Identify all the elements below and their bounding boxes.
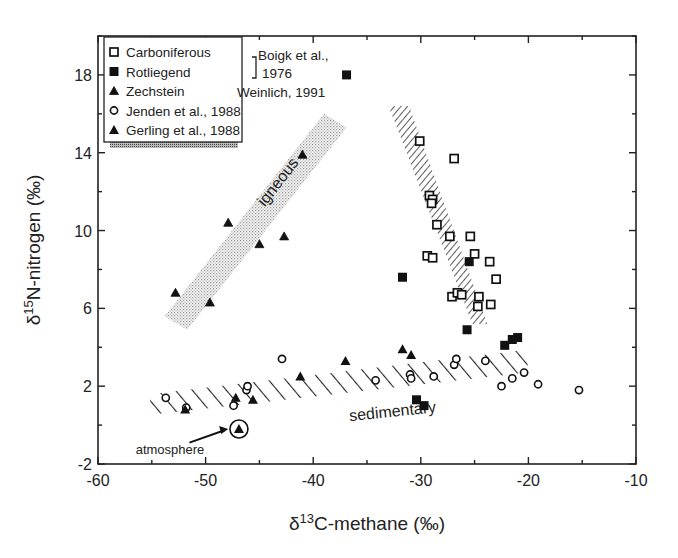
- legend-item: Carboniferous: [110, 45, 211, 60]
- marker-open-square: [471, 250, 479, 258]
- annotation-atmosphere: atmosphere: [136, 442, 205, 457]
- marker-open-circle: [575, 386, 582, 393]
- marker-open-circle: [430, 373, 437, 380]
- legend-citation-boigk-1: Boigk et al.,: [258, 48, 329, 63]
- marker-open-square: [450, 155, 458, 163]
- legend-label: Jenden et al., 1988: [126, 104, 241, 119]
- legend-label: Gerling et al., 1988: [126, 123, 240, 138]
- marker-filled-square: [110, 67, 119, 76]
- marker-open-circle: [278, 355, 285, 362]
- legend-label: Rotliegend: [126, 65, 191, 80]
- x-tick-label: -50: [194, 472, 217, 489]
- marker-open-square: [458, 291, 466, 299]
- marker-triangle: [171, 288, 180, 296]
- marker-open-circle: [534, 381, 541, 388]
- marker-open-square: [416, 137, 424, 145]
- marker-filled-square: [513, 333, 522, 342]
- marker-open-circle: [509, 375, 516, 382]
- legend-citation-boigk-2: 1976: [262, 66, 292, 81]
- marker-filled-square: [342, 70, 351, 79]
- marker-triangle: [224, 218, 233, 226]
- marker-open-square: [486, 258, 494, 266]
- marker-open-circle: [408, 375, 415, 382]
- marker-filled-triangle: [340, 356, 350, 365]
- marker-open-square: [110, 48, 118, 56]
- x-tick-label: -60: [86, 472, 109, 489]
- marker-filled-square: [420, 401, 429, 410]
- x-tick-label: -20: [517, 472, 540, 489]
- marker-open-square: [475, 293, 483, 301]
- marker-open-square: [429, 254, 437, 262]
- marker-filled-square: [465, 257, 474, 266]
- marker-open-circle: [482, 357, 489, 364]
- region-sedimentary: [146, 349, 530, 415]
- marker-open-circle: [498, 383, 505, 390]
- marker-filled-triangle: [406, 350, 416, 359]
- marker-open-square: [446, 232, 454, 240]
- marker-open-square: [428, 199, 436, 207]
- legend-label: Zechstein: [126, 84, 185, 99]
- y-tick-label: -2: [78, 456, 92, 473]
- marker-open-circle: [110, 107, 117, 114]
- marker-open-square: [433, 221, 441, 229]
- legend-label: Carboniferous: [126, 45, 211, 60]
- marker-open-square: [492, 275, 500, 283]
- marker-open-circle: [230, 402, 237, 409]
- x-tick-label: -40: [302, 472, 325, 489]
- y-tick-label: 14: [74, 145, 92, 162]
- x-tick-label: -30: [409, 472, 432, 489]
- arrow-head-icon: [219, 426, 228, 434]
- marker-open-circle: [520, 369, 527, 376]
- y-tick-label: 2: [83, 378, 92, 395]
- annotations: atmosphere: [136, 420, 248, 457]
- marker-filled-square: [398, 273, 407, 282]
- legend-citation-weinlich: Weinlich, 1991: [237, 85, 325, 100]
- marker-open-square: [474, 302, 482, 310]
- y-tick-label: 10: [74, 223, 92, 240]
- marker-filled-square: [463, 325, 472, 334]
- y-tick-label: 6: [83, 300, 92, 317]
- marker-triangle: [280, 232, 289, 240]
- legend-item: Jenden et al., 1988: [110, 104, 240, 119]
- marker-filled-triangle: [234, 424, 244, 433]
- marker-open-circle: [244, 383, 251, 390]
- y-tick-label: 18: [74, 67, 92, 84]
- y-axis-title: δ15N-nitrogen (‰): [21, 175, 44, 326]
- marker-filled-triangle: [295, 371, 305, 380]
- x-axis-title: δ13C-methane (‰): [289, 511, 445, 534]
- scatter-chart: igneoussedimentary -60-50-40-30-20-10-22…: [0, 0, 678, 558]
- legend-item: Gerling et al., 1988: [109, 123, 240, 138]
- marker-open-circle: [372, 377, 379, 384]
- marker-open-circle: [162, 394, 169, 401]
- arrow-line: [189, 430, 225, 443]
- legend: CarboniferousRotliegendZechsteinJenden e…: [104, 37, 329, 148]
- marker-filled-triangle: [398, 344, 408, 353]
- marker-open-square: [487, 300, 495, 308]
- region-thermogenic-trend: [389, 106, 488, 324]
- x-tick-label: -10: [624, 472, 647, 489]
- marker-open-circle: [453, 355, 460, 362]
- marker-open-square: [466, 232, 474, 240]
- legend-bracket: [252, 57, 256, 78]
